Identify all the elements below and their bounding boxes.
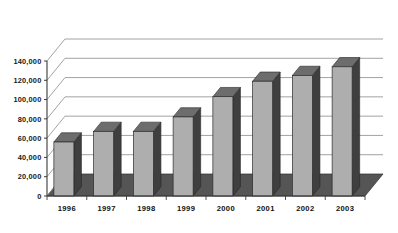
x-axis-label-2002: 2002 [296, 204, 314, 213]
bar-2003[interactable] [332, 58, 360, 196]
bar-1997[interactable] [94, 122, 122, 196]
chart-canvas: 020,00040,00060,00080,000100,000120,0001… [0, 0, 398, 233]
x-axis-label-1999: 1999 [177, 204, 195, 213]
bar-side-face-1996 [74, 133, 82, 196]
gridline-depth-140000 [47, 39, 65, 61]
x-axis-label-1997: 1997 [98, 204, 116, 213]
bar-front-face-2000[interactable] [213, 97, 233, 196]
y-axis-label-40000: 40,000 [18, 153, 42, 162]
bar-1999[interactable] [173, 108, 201, 196]
x-axis-label-1996: 1996 [58, 204, 76, 213]
gridline-group-140000 [47, 39, 383, 61]
gridline-depth-100000 [47, 78, 65, 100]
bar-2001[interactable] [253, 72, 281, 196]
bar-side-face-2003 [352, 58, 360, 196]
bar-1998[interactable] [133, 122, 161, 196]
bar-front-face-2001[interactable] [253, 81, 273, 196]
bar-1996[interactable] [54, 133, 82, 196]
bar-side-face-2001 [273, 72, 281, 196]
y-axis-label-140000: 140,000 [13, 57, 41, 66]
gridline-depth-120000 [47, 58, 65, 80]
bar-side-face-1999 [193, 108, 201, 196]
bar-side-face-2000 [233, 87, 241, 196]
x-axis-label-2001: 2001 [257, 204, 276, 213]
y-axis-label-60000: 60,000 [18, 134, 42, 143]
y-axis-label-100000: 100,000 [13, 95, 41, 104]
y-axis-label-0: 0 [37, 192, 41, 201]
bar-side-face-1998 [153, 122, 161, 196]
y-axis-label-120000: 120,000 [13, 76, 41, 85]
bar-side-face-1997 [114, 122, 122, 196]
bar-chart: 020,00040,00060,00080,000100,000120,0001… [0, 0, 398, 233]
bar-2002[interactable] [292, 66, 320, 196]
y-axis-label-20000: 20,000 [18, 172, 42, 181]
x-axis-label-2000: 2000 [217, 204, 235, 213]
x-axis-label-2003: 2003 [336, 204, 354, 213]
bar-front-face-2003[interactable] [332, 67, 352, 196]
y-axis-label-80000: 80,000 [18, 115, 42, 124]
bar-front-face-1998[interactable] [133, 131, 153, 196]
gridline-depth-80000 [47, 97, 65, 119]
x-axis-label-1998: 1998 [137, 204, 155, 213]
bar-front-face-1999[interactable] [173, 117, 193, 196]
bar-2000[interactable] [213, 87, 241, 196]
bar-front-face-1997[interactable] [94, 131, 114, 196]
bar-front-face-1996[interactable] [54, 142, 74, 196]
bar-front-face-2002[interactable] [292, 75, 312, 196]
bar-side-face-2002 [312, 66, 320, 196]
